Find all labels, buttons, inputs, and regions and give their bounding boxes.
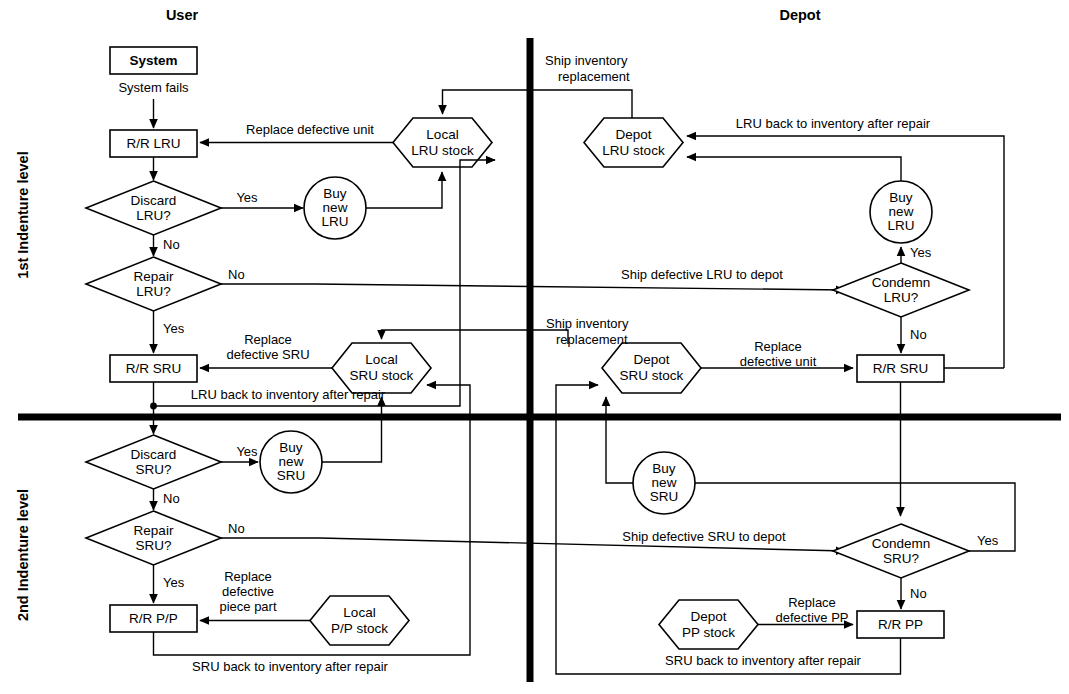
node-repair-sru-label-2: SRU? (135, 538, 171, 553)
edge-replace-defective-pp-depot-label-2: defective PP (776, 610, 849, 625)
node-condemn-lru-label-2: LRU? (884, 290, 919, 305)
edge-ship-inventory-replacement-sru-label-2: replacement (556, 332, 628, 347)
node-depot-lru-stock-label-2: LRU stock (602, 143, 665, 158)
node-discard-lru-label-1: Discard (131, 193, 177, 208)
node-system-label: System (129, 53, 177, 68)
diagram-canvas: User Depot 1st Indenture level 2nd Inden… (0, 0, 1069, 694)
edge-ship-inventory-replacement-lru-label-2: replacement (558, 69, 630, 84)
edge-buy-new-lru-depot-to-depot-lru-stock (687, 157, 901, 181)
edge-rr-sru-depot-to-depot-lru-stock (687, 136, 1004, 368)
edge-sru-back-to-inventory-depot-label: SRU back to inventory after repair (665, 653, 861, 668)
node-condemn-sru-label-2: SRU? (883, 551, 919, 566)
node-local-pp-stock-label-2: P/P stock (331, 621, 388, 636)
node-buy-new-sru-depot-label-3: SRU (650, 489, 679, 504)
node-condemn-sru-label-1: Condemn (872, 536, 931, 551)
node-depot-pp-stock-label-2: PP stock (682, 625, 735, 640)
node-local-sru-stock-label-2: SRU stock (350, 368, 414, 383)
edge-buy-new-lru-user-to-local-lru-stock (366, 172, 442, 208)
edge-replace-defective-pp-label-3: piece part (219, 599, 276, 614)
node-local-lru-stock-label-1: Local (426, 127, 458, 142)
flowchart-svg: User Depot 1st Indenture level 2nd Inden… (0, 0, 1069, 694)
node-buy-new-sru-depot-label-1: Buy (652, 461, 676, 476)
node-rr-lru-label: R/R LRU (126, 136, 180, 151)
junction-rr-sru-user (150, 403, 157, 410)
node-buy-new-lru-user-label-3: LRU (321, 214, 348, 229)
node-depot-pp-stock-label-1: Depot (690, 609, 726, 624)
node-repair-lru-label-2: LRU? (136, 284, 171, 299)
edge-replace-defective-unit-depot-label-2: defective unit (740, 354, 817, 369)
edge-yes-discard-lru-label: Yes (236, 190, 258, 205)
edge-no-repair-sru-label: No (228, 521, 245, 536)
edge-no-discard-lru-label: No (163, 237, 180, 252)
edge-sru-back-to-inventory-user-label: SRU back to inventory after repair (192, 659, 388, 674)
node-local-sru-stock-label-1: Local (365, 352, 397, 367)
edge-lru-back-to-inventory-depot-label: LRU back to inventory after repair (736, 116, 931, 131)
edge-ship-inventory-replacement-lru-label-1: Ship inventory (545, 53, 628, 68)
edge-replace-defective-unit-depot-label-1: Replace (754, 339, 802, 354)
edge-depot-sru-stock-to-local-sru-stock (382, 330, 551, 339)
edge-replace-defective-sru-label-2: defective SRU (226, 347, 309, 362)
node-buy-new-sru-user-label-2: new (279, 454, 304, 469)
edge-replace-defective-pp-label-1: Replace (224, 569, 272, 584)
lane-title-depot: Depot (779, 7, 820, 23)
edge-no-condemn-lru-label: No (910, 327, 927, 342)
edge-lru-back-to-inventory-user-label: LRU back to inventory after repair (191, 387, 386, 402)
node-buy-new-lru-depot-label-2: new (889, 204, 914, 219)
edge-no-repair-lru-label: No (228, 267, 245, 282)
node-rr-pp-depot-label: R/R PP (878, 617, 923, 632)
node-buy-new-lru-depot-label-1: Buy (889, 190, 913, 205)
edge-ship-defective-lru-label: Ship defective LRU to depot (621, 267, 783, 282)
node-depot-lru-stock-label-1: Depot (615, 127, 651, 142)
edge-ship-inventory-replacement-sru-label-1: Ship inventory (546, 316, 629, 331)
level-title-1st: 1st Indenture level (15, 151, 31, 278)
edge-yes-repair-sru-label: Yes (163, 575, 185, 590)
node-buy-new-lru-user-label-1: Buy (323, 186, 347, 201)
edge-system-fails-label: System fails (118, 80, 189, 95)
node-depot-sru-stock-label-2: SRU stock (620, 368, 684, 383)
node-discard-lru-label-2: LRU? (136, 208, 171, 223)
node-discard-sru-label-2: SRU? (135, 462, 171, 477)
node-rr-sru-user-label: R/R SRU (126, 361, 182, 376)
edge-yes-condemn-sru-label: Yes (977, 533, 999, 548)
node-depot-sru-stock-label-1: Depot (633, 352, 669, 367)
edge-no-discard-sru-label: No (163, 491, 180, 506)
edge-ship-defective-sru-label: Ship defective SRU to depot (622, 529, 786, 544)
edge-replace-defective-unit-user-label: Replace defective unit (246, 122, 374, 137)
edge-yes-repair-lru-label: Yes (163, 321, 185, 336)
node-local-lru-stock-label-2: LRU stock (411, 143, 474, 158)
node-buy-new-lru-depot-label-3: LRU (887, 218, 914, 233)
node-repair-lru-label-1: Repair (134, 269, 174, 284)
node-condemn-lru-label-1: Condemn (872, 275, 931, 290)
node-repair-sru-label-1: Repair (134, 523, 174, 538)
edge-yes-discard-sru-label: Yes (236, 444, 258, 459)
node-buy-new-sru-user-label-1: Buy (279, 440, 303, 455)
edge-replace-defective-sru-label-1: Replace (244, 332, 292, 347)
node-buy-new-sru-user-label-3: SRU (277, 468, 306, 483)
node-discard-sru-label-1: Discard (131, 447, 177, 462)
edge-no-condemn-sru-label: No (910, 586, 927, 601)
level-title-2nd: 2nd Indenture level (15, 489, 31, 621)
node-buy-new-lru-user-label-2: new (323, 200, 348, 215)
node-local-pp-stock-label-1: Local (343, 605, 375, 620)
node-buy-new-sru-depot-label-2: new (652, 475, 677, 490)
edge-yes-condemn-lru-label: Yes (910, 245, 932, 260)
edge-rr-pp-user-to-local-sru-stock (154, 385, 471, 655)
node-rr-pp-user-label: R/R P/P (129, 611, 178, 626)
edge-buy-new-sru-user-to-local-sru-stock (322, 397, 382, 462)
edge-replace-defective-pp-depot-label-1: Replace (788, 595, 836, 610)
node-rr-sru-depot-label: R/R SRU (873, 361, 929, 376)
edge-buy-new-sru-depot-to-depot-sru-stock (606, 397, 633, 483)
lane-title-user: User (166, 7, 199, 23)
edge-replace-defective-pp-label-2: defective (222, 584, 274, 599)
edge-depot-lru-stock-to-local-lru-stock (443, 90, 633, 120)
